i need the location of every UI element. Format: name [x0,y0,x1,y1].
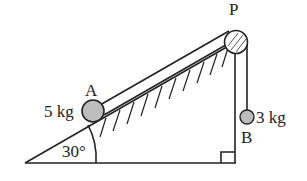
pulley-label: P [229,1,238,18]
mass-b [240,110,254,124]
plank-bottom-edge [104,42,231,115]
mass-a-label: A [85,82,97,99]
diagram-drawing [0,0,307,181]
incline-pulley-diagram: P A 5 kg 3 kg B 30° [0,0,307,181]
angle-arc [88,125,96,163]
mass-b-weight: 3 kg [256,109,286,126]
mass-a-weight: 5 kg [44,103,74,120]
mass-b-label: B [241,129,252,146]
mass-a [82,100,104,122]
right-angle-marker [221,152,235,163]
hatching [100,48,228,137]
pulley [225,31,248,54]
angle-label: 30° [62,143,86,160]
plank-top-edge [100,31,229,105]
